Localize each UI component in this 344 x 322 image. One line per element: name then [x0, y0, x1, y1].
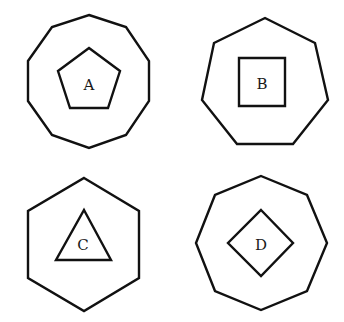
label-d: D	[255, 236, 267, 254]
figure-a: A	[28, 15, 149, 148]
polygon-diagram: A B C D	[0, 0, 344, 322]
label-b: B	[256, 75, 267, 93]
figure-d: D	[196, 176, 327, 310]
figure-b: B	[202, 18, 328, 144]
label-c: C	[77, 236, 88, 254]
figure-c: C	[28, 178, 139, 311]
label-a: A	[83, 76, 95, 94]
